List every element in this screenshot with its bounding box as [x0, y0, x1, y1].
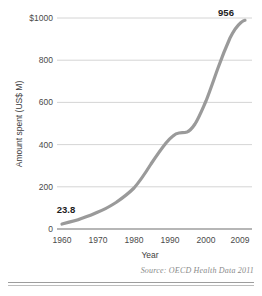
- y-tick-label-1000: $1000: [29, 13, 53, 23]
- x-tick-label-2009: 2009: [231, 235, 250, 245]
- x-tick-label-1960: 1960: [53, 235, 72, 245]
- x-tick-label-1990: 1990: [161, 235, 180, 245]
- data-series-amount-spent: [62, 20, 245, 224]
- x-axis-title: Year: [141, 250, 158, 260]
- line-chart-figure: $1000 800 600 400 200 0 1960 1970 1980 1…: [0, 0, 262, 296]
- y-axis-title: Amount spent (US$ M): [14, 81, 24, 168]
- annotation-start-value: 23.8: [57, 204, 76, 215]
- chart-plot-area: $1000 800 600 400 200 0 1960 1970 1980 1…: [0, 0, 262, 262]
- footer-rule-bottom: [8, 285, 254, 286]
- x-tick-label-1980: 1980: [125, 235, 144, 245]
- y-tick-label-800: 800: [39, 55, 53, 65]
- y-tick-label-600: 600: [39, 97, 53, 107]
- y-tick-label-0: 0: [48, 224, 53, 234]
- x-tick-label-1970: 1970: [89, 235, 108, 245]
- chart-footer: Source: OECD Health Data 2011: [0, 262, 262, 296]
- annotation-end-value: 956: [218, 7, 234, 18]
- source-citation: Source: OECD Health Data 2011: [141, 266, 254, 275]
- x-tick-label-2000: 2000: [197, 235, 216, 245]
- y-tick-label-400: 400: [39, 140, 53, 150]
- y-tick-label-200: 200: [39, 182, 53, 192]
- footer-rule-top: [8, 282, 254, 283]
